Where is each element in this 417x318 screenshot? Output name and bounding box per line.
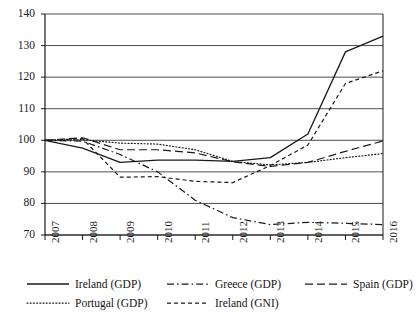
legend-line-swatch — [304, 279, 348, 289]
x-tick-label: 2011 — [200, 221, 211, 243]
legend-item-portugal-gdp[interactable]: Portugal (GDP) — [26, 297, 166, 309]
legend-item-ireland-gni[interactable]: Ireland (GNI) — [166, 297, 304, 309]
y-tick-label: 90 — [5, 166, 35, 178]
legend-label: Spain (GDP) — [353, 278, 413, 290]
y-tick-label: 110 — [5, 103, 35, 115]
y-tick-label: 80 — [5, 197, 35, 209]
legend-row: Ireland (GDP)Greece (GDP)Spain (GDP) — [0, 274, 417, 293]
y-tick-label: 130 — [5, 40, 35, 52]
series-lines-group — [45, 36, 383, 224]
chart-legend: Ireland (GDP)Greece (GDP)Spain (GDP)Port… — [0, 272, 406, 318]
y-tick-label: 140 — [5, 8, 35, 20]
x-tick-label: 2012 — [238, 221, 249, 243]
x-tick-label: 2013 — [275, 221, 286, 243]
y-tick-label: 120 — [5, 71, 35, 83]
legend-item-ireland-gdp[interactable]: Ireland (GDP) — [26, 278, 166, 290]
legend-label: Ireland (GNI) — [215, 297, 279, 309]
legend-line-swatch — [166, 279, 210, 289]
legend-line-swatch — [166, 298, 210, 308]
x-tick-label: 2009 — [125, 221, 136, 243]
legend-line-swatch — [26, 279, 70, 289]
legend-item-spain-gdp[interactable]: Spain (GDP) — [304, 278, 417, 290]
axes-group — [45, 14, 383, 235]
series-line-ireland-gdp — [45, 36, 383, 162]
legend-label: Greece (GDP) — [215, 278, 281, 290]
x-tick-label: 2008 — [88, 221, 99, 243]
legend-line-swatch — [26, 298, 70, 308]
legend-label: Ireland (GDP) — [75, 278, 141, 290]
legend-row: Portugal (GDP)Ireland (GNI) — [0, 293, 417, 312]
x-tick-label: 2016 — [388, 221, 399, 243]
gridlines-group — [45, 14, 383, 235]
x-tick-label: 2010 — [163, 221, 174, 243]
x-tick-label: 2014 — [313, 221, 324, 243]
y-tick-label: 100 — [5, 134, 35, 146]
legend-item-greece-gdp[interactable]: Greece (GDP) — [166, 278, 304, 290]
x-tick-label: 2007 — [50, 221, 61, 243]
y-tick-label: 70 — [5, 229, 35, 241]
series-line-ireland-gni — [45, 71, 383, 183]
legend-label: Portugal (GDP) — [75, 297, 148, 309]
x-tick-label: 2015 — [350, 221, 361, 243]
